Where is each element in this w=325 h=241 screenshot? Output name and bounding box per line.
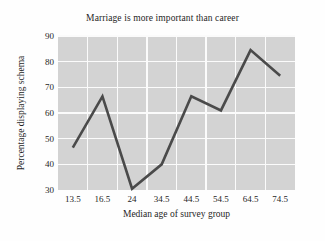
x-axis-tick-labels: 13.516.52434.544.554.564.574.5 (58, 194, 295, 208)
series-polyline (73, 50, 280, 189)
y-tick-label: 80 (2, 57, 54, 67)
y-axis-tick-labels: 30405060708090 (0, 36, 54, 190)
line-series (58, 36, 295, 190)
y-tick-label: 70 (2, 82, 54, 92)
chart-title: Marriage is more important than career (0, 13, 325, 23)
y-tick-label: 30 (2, 185, 54, 195)
y-tick-label: 60 (2, 108, 54, 118)
x-tick-label: 74.5 (260, 194, 300, 204)
plot-area (58, 36, 295, 190)
chart-figure: Marriage is more important than career 3… (0, 0, 325, 241)
y-tick-label: 40 (2, 159, 54, 169)
y-tick-label: 90 (2, 31, 54, 41)
x-axis-label: Median age of survey group (58, 209, 295, 219)
y-tick-label: 50 (2, 134, 54, 144)
y-axis-label: Percentage displaying schema (16, 33, 26, 193)
